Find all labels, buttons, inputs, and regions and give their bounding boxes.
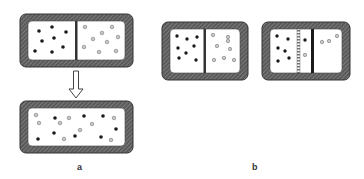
porous-membrane — [297, 29, 300, 73]
panel-b2-container — [262, 22, 350, 80]
panel-label-a: a — [77, 162, 82, 172]
container-interior — [270, 29, 342, 73]
diagram-canvas — [0, 0, 364, 179]
solid-membrane — [311, 29, 314, 73]
partition-wall — [75, 21, 78, 60]
panel-a-bottom-container — [20, 101, 133, 153]
panel-a-top-container — [20, 14, 133, 67]
panel-label-b: b — [252, 162, 258, 172]
partition-wall — [204, 29, 207, 73]
panel-b1-container — [162, 22, 248, 80]
down-arrow-icon — [69, 71, 83, 98]
